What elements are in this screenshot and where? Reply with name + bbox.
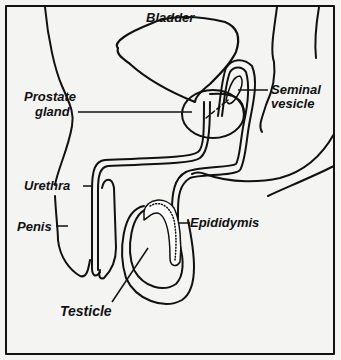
body-outline-right-upper bbox=[315, 7, 319, 58]
label-seminal-line2: vesicle bbox=[271, 98, 314, 110]
label-testicle: Testicle bbox=[60, 305, 112, 317]
penis-shaft bbox=[99, 180, 116, 279]
bladder-shape bbox=[117, 17, 238, 102]
body-outline-right-back bbox=[260, 7, 277, 132]
scrotum-outer bbox=[122, 206, 194, 304]
body-outline-rectum bbox=[268, 166, 334, 196]
body-outline-penis-back bbox=[55, 196, 90, 276]
label-urethra: Urethra bbox=[24, 180, 70, 192]
label-prostate-line1: Prostate bbox=[24, 91, 76, 103]
label-prostate-line2: gland bbox=[35, 106, 70, 118]
label-bladder: Bladder bbox=[146, 12, 194, 24]
label-epididymis: Epididymis bbox=[190, 217, 259, 229]
label-penis: Penis bbox=[17, 221, 52, 233]
label-seminal-line1: Seminal bbox=[271, 84, 321, 96]
